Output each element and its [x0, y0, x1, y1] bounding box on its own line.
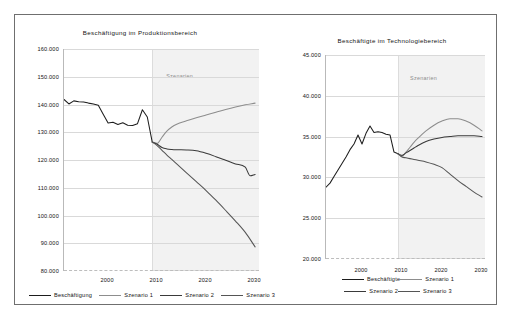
series-line-1: [326, 126, 398, 187]
legend-entry: Szenario 1: [400, 276, 454, 282]
x-tick-label: 2020: [190, 277, 220, 283]
x-tick-label: 2010: [386, 267, 416, 273]
series-line-3: [152, 142, 255, 176]
series-line-3: [398, 136, 482, 156]
y-tick-label: 160.000: [19, 46, 59, 52]
y-tick-label: 40.000: [281, 93, 321, 99]
y-tick-label: 30.000: [281, 174, 321, 180]
y-tick-label: 35.000: [281, 134, 321, 140]
legend-swatch: [344, 291, 366, 292]
y-tick-label: 90.000: [19, 240, 59, 246]
x-tick-label: 2030: [239, 277, 269, 283]
plot-area: Szenarien: [63, 49, 259, 271]
legend-swatch: [29, 295, 51, 296]
series-line-4: [398, 154, 482, 197]
legend-entry: Szenario 3: [398, 288, 452, 294]
legend-entry: Szenario 2: [344, 288, 398, 294]
series-layer: [64, 49, 259, 271]
chart-technologiebereich: Beschäftigte im Technologiebereich Szena…: [277, 15, 498, 306]
screenshot-root: Beschäftigung im Produktionsbereich Szen…: [0, 0, 514, 319]
chart-title: Beschäftigung im Produktionsbereich: [15, 29, 265, 36]
legend-swatch: [99, 295, 121, 296]
legend-label: Szenario 1: [124, 292, 153, 298]
y-tick-label: 130.000: [19, 129, 59, 135]
legend-entry: Szenario 3: [221, 292, 275, 298]
series-line-4: [152, 142, 255, 247]
y-tick-label: 120.000: [19, 157, 59, 163]
figure-frame: Beschäftigung im Produktionsbereich Szen…: [14, 14, 497, 305]
chart-produktionsbereich: Beschäftigung im Produktionsbereich Szen…: [15, 15, 277, 306]
x-tick-label: 2010: [141, 277, 171, 283]
series-line-2: [152, 103, 255, 143]
legend-swatch: [398, 291, 420, 292]
legend-swatch: [400, 279, 422, 280]
legend-label: Beschäftigte: [367, 276, 400, 282]
legend-label: Szenario 3: [423, 288, 452, 294]
y-tick-label: 25.000: [281, 215, 321, 221]
y-tick-label: 20.000: [281, 256, 321, 262]
y-tick-label: 80.000: [19, 268, 59, 274]
legend-label: Szenario 1: [425, 276, 454, 282]
y-tick-label: 100.000: [19, 213, 59, 219]
legend-entry: Beschäftigte: [342, 276, 400, 282]
legend-entry: Szenario 2: [160, 292, 214, 298]
legend-entry: Beschäftigung: [29, 292, 92, 298]
y-tick-label: 140.000: [19, 102, 59, 108]
plot-area: Szenarien: [325, 55, 485, 259]
series-layer: [326, 55, 485, 259]
x-tick-label: 2000: [92, 277, 122, 283]
series-line-1: [64, 100, 152, 142]
x-tick-label: 2020: [426, 267, 456, 273]
legend-label: Beschäftigung: [54, 292, 92, 298]
chart-legend: BeschäftigungSzenario 1Szenario 2Szenari…: [29, 292, 275, 298]
legend-label: Szenario 2: [369, 288, 398, 294]
legend-swatch: [342, 279, 364, 280]
y-tick-label: 110.000: [19, 185, 59, 191]
legend-swatch: [160, 295, 182, 296]
chart-title: Beschäftigte im Technologiebereich: [297, 37, 487, 44]
y-tick-label: 150.000: [19, 74, 59, 80]
chart-legend-row-1: BeschäftigteSzenario 1: [313, 276, 483, 282]
legend-label: Szenario 3: [246, 292, 275, 298]
legend-swatch: [221, 295, 243, 296]
legend-label: Szenario 2: [185, 292, 214, 298]
chart-legend-row-2: Szenario 2Szenario 3: [313, 288, 483, 294]
x-tick-label: 2030: [466, 267, 496, 273]
legend-entry: Szenario 1: [99, 292, 153, 298]
y-tick-label: 45.000: [281, 52, 321, 58]
x-tick-label: 2000: [346, 267, 376, 273]
